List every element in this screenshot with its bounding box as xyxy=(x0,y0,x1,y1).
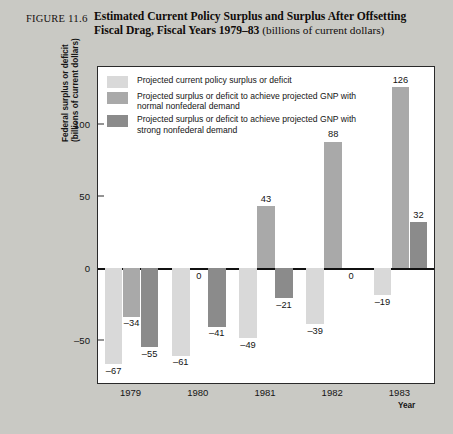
bar-rect xyxy=(410,222,428,268)
bar-rect xyxy=(257,206,275,268)
bar-value-label: –67 xyxy=(106,366,122,376)
x-axis-tick-label: 1982 xyxy=(322,387,343,398)
figure-subtitle: (billions of current dollars) xyxy=(262,24,384,36)
bar-rect xyxy=(123,268,141,317)
bar: 88 xyxy=(324,67,342,383)
bar-group: –610–41 xyxy=(165,67,232,383)
figure-page: FIGURE 11.6 Estimated Current Policy Sur… xyxy=(0,0,453,434)
plot-inner: Projected current policy surplus or defi… xyxy=(98,67,434,383)
figure-title: Estimated Current Policy Surplus and Sur… xyxy=(94,11,430,37)
bar-series-layer: –67–34–55–610–41–4943–21–39880–1912632 xyxy=(98,67,434,383)
bar-rect xyxy=(306,268,324,324)
y-axis-tick-label: 50 xyxy=(52,191,98,202)
bar-value-label: –55 xyxy=(142,349,158,359)
x-axis-labels: 19791980198119821983 xyxy=(97,387,435,403)
y-axis-tick-label: 100 xyxy=(52,119,98,130)
bar-value-label: 126 xyxy=(393,75,409,85)
bar-value-label: –34 xyxy=(124,318,140,328)
bar: 32 xyxy=(410,67,428,383)
bar-value-label: –41 xyxy=(209,328,225,338)
bar: –55 xyxy=(141,67,159,383)
bar-value-label: 0 xyxy=(196,271,201,281)
bar-rect xyxy=(172,268,190,356)
bar-group: –67–34–55 xyxy=(98,67,165,383)
bar-value-label: –21 xyxy=(276,300,292,310)
y-axis-tick-label: –50 xyxy=(52,334,98,345)
bar: –19 xyxy=(374,67,392,383)
bar-value-label: –19 xyxy=(375,297,391,307)
bar: 43 xyxy=(257,67,275,383)
bar-rect xyxy=(392,87,410,268)
bar: –34 xyxy=(123,67,141,383)
bar-rect xyxy=(239,268,257,338)
bar: 0 xyxy=(342,67,360,383)
bar-value-label: 32 xyxy=(413,210,423,220)
x-axis-tick-label: 1983 xyxy=(389,387,410,398)
bar: –41 xyxy=(208,67,226,383)
bar-group: –4943–21 xyxy=(232,67,299,383)
bar-group: –1912632 xyxy=(367,67,434,383)
bar-rect xyxy=(141,268,159,347)
x-axis-tick-label: 1980 xyxy=(187,387,208,398)
chart-plot-area: Federal surplus or deficit (billions of … xyxy=(97,66,435,384)
bar: –39 xyxy=(306,67,324,383)
bar: 0 xyxy=(190,67,208,383)
bar: –67 xyxy=(105,67,123,383)
bar-value-label: 43 xyxy=(261,194,271,204)
bar-value-label: –39 xyxy=(307,326,323,336)
figure-label: FIGURE 11.6 xyxy=(26,11,94,24)
y-axis-tick-label: 0 xyxy=(52,263,98,274)
bar-rect xyxy=(275,268,293,298)
bar-rect xyxy=(208,268,226,327)
bar-group: –39880 xyxy=(300,67,367,383)
figure-title-line2: Fiscal Drag, Fiscal Years 1979–83 xyxy=(94,24,259,37)
x-axis-title: Year xyxy=(398,401,415,410)
x-axis-tick-label: 1981 xyxy=(254,387,275,398)
bar-value-label: –49 xyxy=(240,340,256,350)
bar: –49 xyxy=(239,67,257,383)
bar: –21 xyxy=(275,67,293,383)
bar-rect xyxy=(374,268,392,295)
figure-title-line1: Estimated Current Policy Surplus and Sur… xyxy=(94,10,406,23)
bar-value-label: –61 xyxy=(173,357,189,367)
figure-caption: FIGURE 11.6 Estimated Current Policy Sur… xyxy=(26,11,438,37)
bar: –61 xyxy=(172,67,190,383)
bar-value-label: 0 xyxy=(349,271,354,281)
figure-heading-row: FIGURE 11.6 Estimated Current Policy Sur… xyxy=(26,11,438,37)
bar-value-label: 88 xyxy=(328,129,338,139)
x-axis-tick-label: 1979 xyxy=(120,387,141,398)
bar: 126 xyxy=(392,67,410,383)
bar-rect xyxy=(105,268,123,364)
figure-label-word: FIGURE xyxy=(26,13,65,24)
bar-rect xyxy=(324,142,342,268)
